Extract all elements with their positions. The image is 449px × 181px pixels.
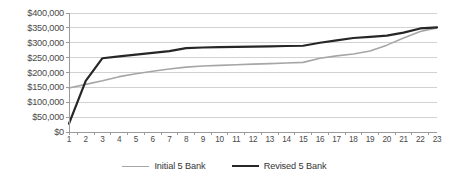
y-axis-tick-label: $150,000 <box>27 82 64 92</box>
x-axis-tick-label: 22 <box>411 135 429 144</box>
x-axis-labels: 1234567891011121314151617181920212223 <box>0 134 449 148</box>
chart-plot-area <box>0 0 449 181</box>
y-axis-tick-label: $100,000 <box>27 97 64 107</box>
x-axis-tick-label: 7 <box>160 135 178 144</box>
y-axis-tick-label: $300,000 <box>27 38 64 48</box>
line-chart: $0$50,000$100,000$150,000$200,000$250,00… <box>0 0 449 181</box>
x-axis-tick-label: 9 <box>194 135 212 144</box>
x-axis-tick-label: 13 <box>261 135 279 144</box>
x-axis-tick-label: 11 <box>227 135 245 144</box>
x-axis-tick-label: 12 <box>244 135 262 144</box>
legend-label: Revised 5 Bank <box>264 161 327 171</box>
x-axis-tick-label: 4 <box>110 135 128 144</box>
x-axis-tick-label: 6 <box>144 135 162 144</box>
x-axis-tick-label: 15 <box>294 135 312 144</box>
x-axis-tick-label: 16 <box>311 135 329 144</box>
x-axis-tick-label: 10 <box>211 135 229 144</box>
x-axis-tick-label: 23 <box>428 135 446 144</box>
legend-item[interactable]: Revised 5 Bank <box>232 161 327 171</box>
x-axis-tick-label: 1 <box>60 135 78 144</box>
y-axis-tick-label: $350,000 <box>27 23 64 33</box>
x-axis-tick-label: 20 <box>378 135 396 144</box>
data-series <box>69 27 437 123</box>
y-axis-labels: $0$50,000$100,000$150,000$200,000$250,00… <box>0 0 64 140</box>
legend-line-swatch <box>232 165 259 167</box>
x-axis-tick-label: 8 <box>177 135 195 144</box>
gridlines <box>69 13 437 132</box>
x-axis-tick-label: 2 <box>77 135 95 144</box>
legend-item[interactable]: Initial 5 Bank <box>122 161 205 171</box>
x-axis-tick-label: 3 <box>93 135 111 144</box>
legend-line-swatch <box>122 166 149 167</box>
y-axis-tick-label: $250,000 <box>27 53 64 63</box>
x-axis-tick-label: 21 <box>395 135 413 144</box>
x-axis-tick-label: 14 <box>277 135 295 144</box>
y-axis-tick-label: $400,000 <box>27 8 64 18</box>
x-axis-tick-label: 19 <box>361 135 379 144</box>
legend-label: Initial 5 Bank <box>154 161 205 171</box>
y-axis-tick-label: $50,000 <box>32 112 64 122</box>
x-axis-tick-label: 5 <box>127 135 145 144</box>
x-axis-tick-label: 18 <box>344 135 362 144</box>
x-axis-tick-label: 17 <box>328 135 346 144</box>
y-axis-tick-label: $200,000 <box>27 68 64 78</box>
chart-legend: Initial 5 BankRevised 5 Bank <box>0 158 449 174</box>
